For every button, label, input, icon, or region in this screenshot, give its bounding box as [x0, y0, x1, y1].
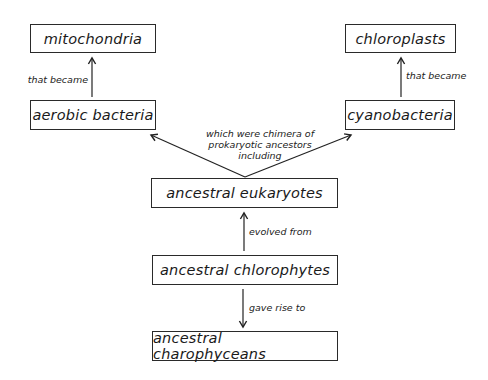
node-label: cyanobacteria: [347, 107, 453, 123]
edge-label-chimera: which were chimera of prokaryotic ancest…: [190, 128, 330, 161]
chimera-line-2: prokaryotic ancestors: [190, 139, 330, 150]
node-label: ancestral chlorophytes: [160, 262, 330, 278]
edge-label-evolved-from: evolved from: [249, 226, 329, 237]
node-aerobic-bacteria: aerobic bacteria: [30, 100, 156, 130]
node-chloroplasts: chloroplasts: [345, 24, 456, 53]
chimera-line-1: which were chimera of: [190, 128, 330, 139]
node-label: chloroplasts: [355, 31, 445, 47]
node-ancestral-charophyceans: ancestral charophyceans: [152, 331, 338, 361]
node-label: ancestral eukaryotes: [166, 185, 323, 201]
edge-label-that-became-right: that became: [406, 70, 476, 81]
edge-label-gave-rise-to: gave rise to: [249, 302, 329, 313]
chimera-line-3: including: [190, 150, 330, 161]
node-ancestral-chlorophytes: ancestral chlorophytes: [152, 255, 338, 285]
node-mitochondria: mitochondria: [30, 24, 156, 53]
edge-label-that-became-left: that became: [22, 74, 88, 85]
node-label: aerobic bacteria: [32, 107, 153, 123]
node-cyanobacteria: cyanobacteria: [345, 100, 455, 130]
node-ancestral-eukaryotes: ancestral eukaryotes: [151, 178, 338, 208]
node-label: ancestral charophyceans: [153, 330, 337, 362]
node-label: mitochondria: [44, 31, 142, 47]
